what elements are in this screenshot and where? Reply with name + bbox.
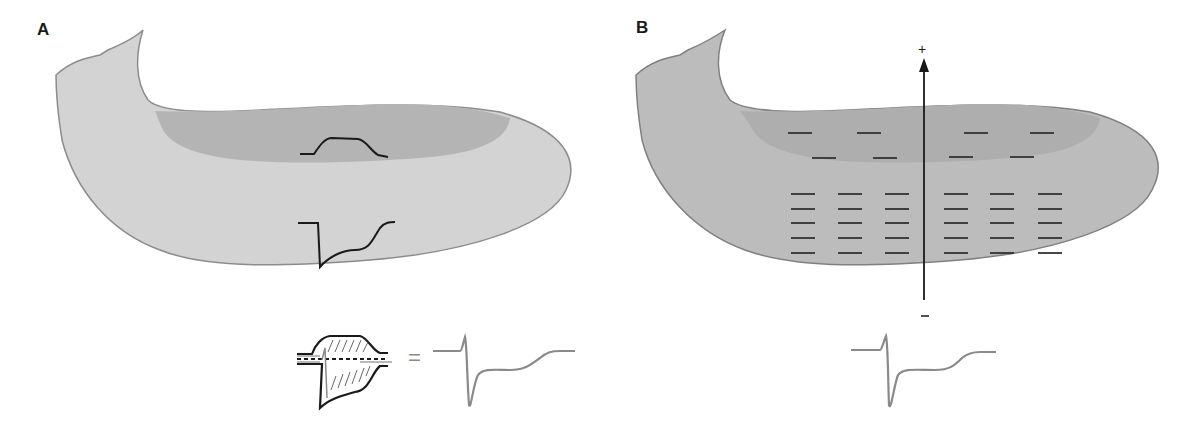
diagram-canvas: = + (0, 0, 1182, 427)
arrow-plus-sign: + (918, 41, 926, 57)
panel-b-ventricle (636, 30, 1158, 265)
panel-a-composite-icon (297, 336, 392, 408)
panel-a-ventricle (56, 30, 571, 265)
equals-sign: = (408, 345, 421, 370)
panel-b-resultant-waveform (851, 336, 996, 406)
panel-a-resultant-waveform (433, 337, 575, 406)
